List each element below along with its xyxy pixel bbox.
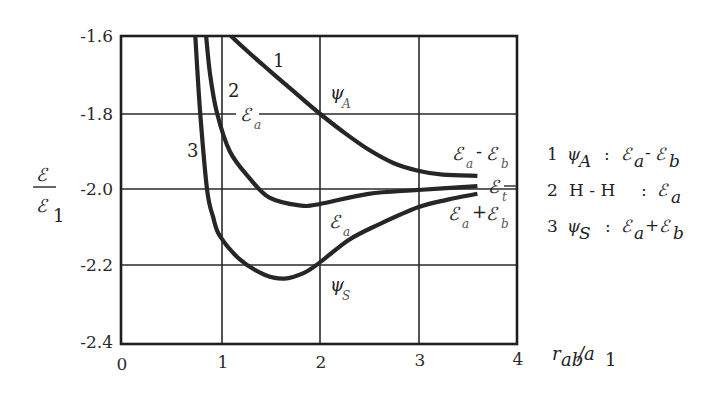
diff-e2: ℰ [486, 143, 499, 164]
ea-upper-sub: a [254, 118, 261, 132]
x-tick-label: 0 [117, 354, 128, 374]
y-tick-label: -1.8 [80, 104, 113, 124]
curve-1-psi-a [231, 36, 478, 176]
legend-symbol-sub: A [577, 151, 591, 171]
psi-s-sub: S [342, 289, 350, 303]
sum-e1-sub: a [462, 217, 469, 231]
legend-colon: : [604, 144, 610, 164]
curve-1-number: 1 [273, 50, 284, 71]
legend-number: 1 [547, 144, 558, 164]
legend-op: - [645, 142, 651, 162]
plot-frame [121, 36, 517, 344]
diff-e2-sub: b [501, 157, 509, 171]
legend-symbol-sub: S [579, 223, 591, 243]
y-tick-label: -2.4 [80, 332, 113, 352]
curve-2-number: 2 [228, 80, 239, 101]
y-tick-label: -1.6 [80, 26, 113, 46]
legend-colon: : [641, 180, 647, 200]
legend-e2-sub: b [673, 223, 684, 243]
x-axis-label: r ab /a 1 [552, 343, 616, 370]
diff-e1-sub: a [466, 157, 473, 171]
y-tick-label: -2.2 [80, 255, 113, 275]
y-label-denominator: ℰ [36, 195, 49, 216]
legend-item-3: 3 ψ S : ℰ a + ℰ b [547, 215, 684, 243]
diff-e1: ℰ [452, 143, 465, 164]
curve-3-psi-s [195, 36, 477, 279]
diff-op: - [476, 141, 482, 162]
sum-e1: ℰ [448, 203, 461, 224]
legend-e1: ℰ [621, 144, 633, 164]
legend: 1 ψ A : ℰ a - ℰ b 2 H - H : ℰ a 3 ψ S : … [547, 142, 684, 243]
x-tick-label: 3 [415, 350, 426, 370]
curve-3-number: 3 [187, 140, 198, 161]
et-label: ℰ [488, 176, 501, 197]
y-label-numerator: ℰ [36, 164, 49, 185]
legend-number: 2 [547, 180, 558, 200]
ea-mid-label: ℰ [329, 211, 342, 232]
x-tick-label: 1 [218, 352, 229, 372]
et-sub: t [502, 190, 507, 204]
grid [121, 36, 517, 344]
x-tick-label: 2 [316, 352, 327, 372]
x-label-a: /a [576, 343, 595, 364]
y-axis-label: ℰ ℰ 1 [33, 164, 64, 226]
legend-op: + [645, 215, 659, 235]
legend-e1-sub: a [671, 187, 681, 207]
energy-vs-distance-chart: -1.6 -1.8 -2.0 -2.2 -2.4 0 1 2 3 4 ℰ ℰ 1… [0, 0, 717, 395]
x-tick-label: 4 [513, 349, 524, 369]
y-tick-label: -2.0 [80, 179, 113, 199]
psi-a-sub: A [341, 97, 351, 111]
legend-e2: ℰ [659, 216, 671, 236]
sum-e2-sub: b [501, 217, 509, 231]
legend-symbol: H - H [569, 180, 615, 200]
legend-item-2: 2 H - H : ℰ a [547, 180, 681, 207]
legend-e1: ℰ [657, 180, 669, 200]
sum-e2: ℰ [486, 203, 499, 224]
legend-e2: ℰ [655, 144, 667, 164]
x-tick-labels: 0 1 2 3 4 [117, 349, 524, 374]
legend-number: 3 [547, 216, 558, 236]
sum-op: + [472, 201, 487, 222]
y-label-denominator-sub: 1 [53, 205, 64, 226]
curves [195, 36, 477, 279]
legend-colon: : [605, 216, 611, 236]
legend-item-1: 1 ψ A : ℰ a - ℰ b [547, 142, 680, 171]
ea-upper-label: ℰ [240, 104, 253, 125]
legend-e1-sub: a [634, 223, 644, 243]
legend-e1: ℰ [621, 216, 633, 236]
x-label-a-sub: 1 [605, 349, 616, 370]
y-tick-labels: -1.6 -1.8 -2.0 -2.2 -2.4 [80, 26, 113, 352]
ea-mid-sub: a [343, 225, 350, 239]
legend-e2-sub: b [669, 151, 680, 171]
legend-e1-sub: a [634, 151, 644, 171]
